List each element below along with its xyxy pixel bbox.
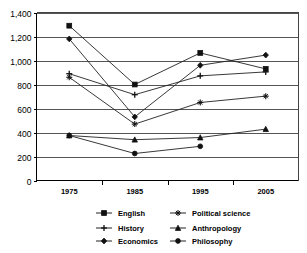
y-tick-label: 200 (17, 153, 31, 163)
y-tick-label: 800 (17, 81, 31, 91)
x-tick-label: 1995 (192, 187, 209, 196)
y-tick-label: 1,000 (10, 57, 32, 67)
legend-label: Anthropology (192, 224, 242, 233)
data-point-marker (132, 121, 138, 127)
data-point-marker (198, 144, 203, 149)
y-tick-label: 1,400 (10, 9, 32, 19)
legend-label: English (118, 209, 146, 218)
data-point-marker (132, 82, 137, 87)
legend-label: Economics (118, 237, 158, 246)
y-tick-label: 0 (27, 177, 32, 187)
legend-label: Philosophy (192, 237, 233, 246)
line-chart: 02004006008001,0001,2001,400 19751985199… (0, 0, 307, 253)
legend-label: History (118, 224, 145, 233)
data-point-marker (263, 93, 269, 99)
y-tick-label: 400 (17, 129, 31, 139)
data-point-marker (198, 51, 203, 56)
data-point-marker (132, 151, 137, 156)
y-tick-label: 1,200 (10, 33, 32, 43)
legend-marker-square-icon (102, 211, 107, 216)
chart-canvas: 02004006008001,0001,2001,400 19751985199… (0, 0, 307, 253)
legend-label: Political science (192, 209, 250, 218)
x-tick-label: 2005 (257, 187, 274, 196)
data-point-marker (67, 23, 72, 28)
data-point-marker (197, 100, 203, 106)
legend-marker-circle-icon (176, 239, 181, 244)
legend-marker-star-icon (175, 210, 181, 216)
y-tick-label: 600 (17, 105, 31, 115)
data-point-marker (67, 133, 72, 138)
x-tick-label: 1975 (61, 187, 78, 196)
x-tick-label: 1985 (126, 187, 143, 196)
